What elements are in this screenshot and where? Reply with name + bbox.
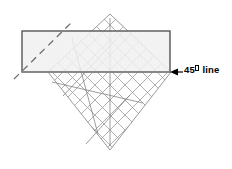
diagram-svg	[0, 0, 232, 169]
annotation-value: 45	[184, 64, 195, 75]
arrow-head-icon	[170, 69, 178, 76]
chord-b	[52, 82, 143, 103]
degree-symbol-icon	[195, 65, 199, 71]
leader-arrow	[170, 69, 183, 76]
figure-canvas: 45 line	[0, 0, 232, 169]
annotation-45-degree-line: 45 line	[184, 64, 219, 75]
shaded-rectangle	[22, 31, 170, 72]
annotation-suffix: line	[200, 64, 220, 75]
